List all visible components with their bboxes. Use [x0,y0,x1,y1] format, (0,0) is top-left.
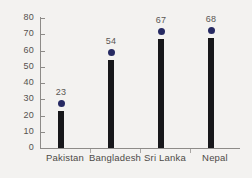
y-axis-tick-label: 40 [8,77,34,88]
bar-value-label: 68 [191,14,231,24]
y-axis-tick-mark [40,99,45,100]
y-axis-tick-mark [40,51,45,52]
data-point-marker [58,100,65,107]
y-axis-tick-label: 30 [8,93,34,104]
category-label: Nepal [180,152,250,164]
bar-chart: 01020304050607080 23546768 PakistanBangl… [0,0,252,178]
y-axis-tick-label: 80 [8,12,34,23]
data-point-marker [108,49,115,56]
y-axis-tick-mark [40,116,45,117]
y-axis-tick-label: 60 [8,45,34,56]
bar [58,111,64,148]
y-axis-tick-mark [40,83,45,84]
y-axis-tick-mark [40,132,45,133]
bar [158,39,164,148]
data-point-marker [208,27,215,34]
data-point-marker [158,28,165,35]
bar [108,60,114,148]
y-axis-tick-mark [40,18,45,19]
y-axis-tick-mark [40,34,45,35]
y-axis-tick-mark [40,148,45,149]
bar [208,38,214,149]
y-axis-tick-label: 20 [8,110,34,121]
bar-value-label: 54 [91,36,131,46]
y-axis-tick-mark [40,67,45,68]
y-axis-tick-label: 70 [8,28,34,39]
y-axis-tick-label: 50 [8,61,34,72]
bar-value-label: 23 [41,87,81,97]
bar-value-label: 67 [141,15,181,25]
y-axis-tick-label: 10 [8,126,34,137]
